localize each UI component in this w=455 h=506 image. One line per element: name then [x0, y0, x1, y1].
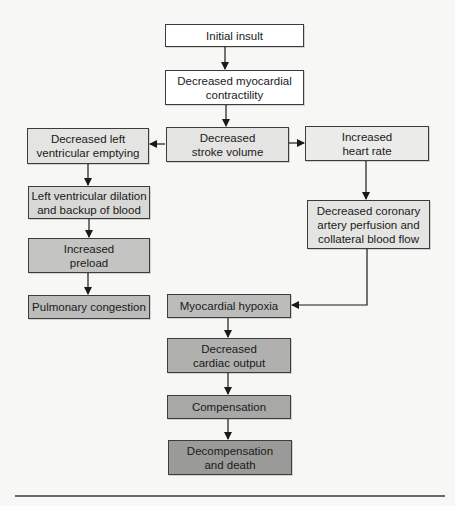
- node-label: cardiac output: [193, 356, 265, 370]
- node-compensation: Compensation: [167, 395, 291, 419]
- node-label: Pulmonary congestion: [32, 300, 146, 314]
- node-increased-heart-rate: Increased heart rate: [305, 126, 429, 161]
- node-increased-preload: Increased preload: [28, 238, 150, 273]
- arrow-coronary-perfusion-to-hypoxia: [292, 249, 367, 305]
- node-label: Increased: [342, 130, 393, 144]
- node-label: collateral blood flow: [318, 232, 419, 246]
- node-label: Decreased: [201, 342, 257, 356]
- node-label: preload: [70, 256, 108, 270]
- node-label: Decreased left: [51, 132, 125, 146]
- node-decreased-stroke-volume: Decreased stroke volume: [166, 127, 289, 162]
- node-decreased-lv-emptying: Decreased left ventricular emptying: [27, 128, 149, 164]
- node-decreased-coronary-perfusion: Decreased coronary artery perfusion and …: [307, 200, 430, 249]
- node-label: stroke volume: [192, 145, 264, 159]
- node-label: contractility: [206, 88, 264, 102]
- node-label: Left ventricular dilation: [31, 189, 146, 203]
- node-lv-dilation-backup: Left ventricular dilation and backup of …: [28, 186, 150, 219]
- node-label: Decreased: [200, 131, 256, 145]
- node-label: and backup of blood: [37, 203, 141, 217]
- node-myocardial-hypoxia: Myocardial hypoxia: [167, 294, 291, 318]
- bottom-divider: [15, 495, 445, 497]
- node-label: Compensation: [192, 400, 266, 414]
- node-label: Decompensation: [187, 444, 273, 458]
- node-initial-insult: Initial insult: [165, 24, 304, 47]
- node-decreased-myocardial-contractility: Decreased myocardial contractility: [165, 70, 304, 105]
- node-label: Initial insult: [206, 29, 263, 43]
- node-label: and death: [204, 458, 255, 472]
- node-label: heart rate: [342, 144, 391, 158]
- node-decompensation-and-death: Decompensation and death: [168, 440, 292, 475]
- node-decreased-cardiac-output: Decreased cardiac output: [167, 338, 291, 373]
- node-label: Decreased myocardial: [177, 74, 291, 88]
- node-label: Myocardial hypoxia: [180, 299, 278, 313]
- node-pulmonary-congestion: Pulmonary congestion: [28, 295, 150, 319]
- node-label: Decreased coronary: [317, 204, 421, 218]
- node-label: artery perfusion and: [317, 218, 419, 232]
- node-label: Increased: [64, 242, 115, 256]
- node-label: ventricular emptying: [37, 146, 140, 160]
